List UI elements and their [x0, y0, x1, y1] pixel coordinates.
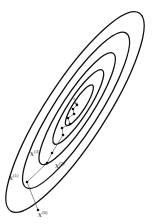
contour-3	[29, 45, 126, 172]
contour-1	[0, 0, 154, 224]
contour-4	[46, 65, 111, 150]
contour-2	[8, 21, 145, 199]
label-x2: x(2)	[55, 161, 65, 170]
label-x1: x(1)	[9, 173, 19, 182]
label-x0: x(0)	[38, 210, 48, 219]
contour-diagram: x(0) x(1) x(2) x(3) x*	[0, 0, 154, 224]
